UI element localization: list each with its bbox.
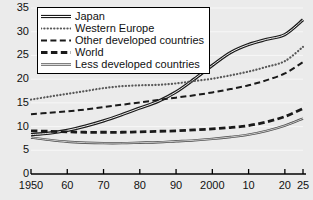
legend-label: Other developed countries: [75, 35, 204, 46]
x-tick-label: 60: [61, 180, 73, 191]
legend-swatch-icon: [41, 59, 71, 70]
x-axis-tick-labels: 1950607080902000102025: [0, 180, 313, 198]
legend-swatch-icon: [41, 47, 71, 58]
y-tick-label: 5: [3, 144, 29, 155]
legend-swatch-icon: [41, 23, 71, 34]
legend-label: World: [75, 47, 104, 58]
x-tick-label: 80: [134, 180, 146, 191]
legend-item: Japan: [41, 10, 204, 22]
legend-item: Other developed countries: [41, 34, 204, 46]
y-tick-label: 0: [3, 168, 29, 179]
y-tick-label: 10: [3, 121, 29, 132]
y-tick-label: 30: [3, 26, 29, 37]
x-tick-label: 70: [97, 180, 109, 191]
y-tick-label: 25: [3, 49, 29, 60]
legend-item: Western Europe: [41, 22, 204, 34]
chart-legend: JapanWestern EuropeOther developed count…: [37, 7, 210, 74]
x-tick-label: 1950: [19, 180, 43, 191]
legend-label: Less developed countries: [75, 59, 200, 70]
legend-swatch-icon: [41, 35, 71, 46]
legend-item: Less developed countries: [41, 58, 204, 70]
legend-swatch-icon: [41, 11, 71, 22]
legend-item: World: [41, 46, 204, 58]
chart-container: 05101520253035 1950607080902000102025 Ja…: [0, 0, 313, 200]
x-tick-label: 20: [279, 180, 291, 191]
y-tick-label: 15: [3, 97, 29, 108]
y-axis-tick-labels: 05101520253035: [0, 0, 29, 200]
y-tick-label: 20: [3, 73, 29, 84]
legend-label: Japan: [75, 11, 105, 22]
y-tick-label: 35: [3, 2, 29, 13]
x-tick-label: 25: [297, 180, 309, 191]
x-tick-label: 10: [242, 180, 254, 191]
x-tick-label: 90: [170, 180, 182, 191]
x-tick-label: 2000: [200, 180, 224, 191]
legend-label: Western Europe: [75, 23, 154, 34]
